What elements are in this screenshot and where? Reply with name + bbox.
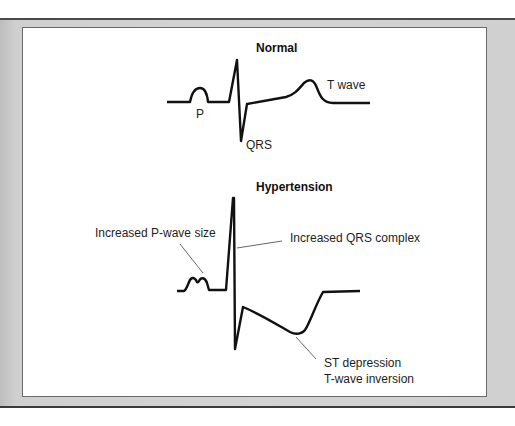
normal-title: Normal bbox=[256, 42, 297, 54]
qrs-leader-line bbox=[237, 241, 282, 248]
st-depression-label: ST depression bbox=[324, 357, 401, 369]
increased-qrs-label: Increased QRS complex bbox=[290, 232, 420, 244]
hypertension-title: Hypertension bbox=[256, 181, 333, 193]
p-wave-label: P bbox=[196, 108, 204, 120]
ecg-diagram bbox=[0, 0, 515, 426]
increased-p-wave-label: Increased P-wave size bbox=[95, 227, 216, 239]
t-wave-inversion-label: T-wave inversion bbox=[324, 373, 414, 385]
p-wave-leader-line bbox=[180, 244, 203, 273]
hypertension-ecg-trace bbox=[177, 198, 360, 349]
normal-ecg-trace bbox=[167, 60, 370, 141]
t-wave-label: T wave bbox=[327, 79, 365, 91]
st-leader-line bbox=[296, 337, 316, 359]
qrs-label: QRS bbox=[246, 139, 272, 151]
